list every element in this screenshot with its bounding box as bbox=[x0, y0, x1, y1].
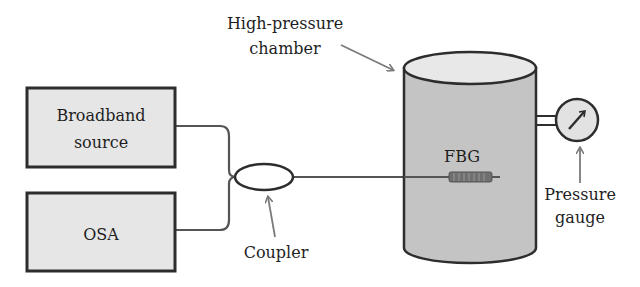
broadband-source-label-line2: source bbox=[74, 133, 128, 152]
grating-lines bbox=[454, 173, 484, 181]
osa-box: OSA bbox=[27, 193, 175, 271]
coupler-label: Coupler bbox=[244, 243, 309, 262]
pressure-gauge: Pressure gauge bbox=[544, 99, 616, 227]
gauge-connector bbox=[534, 116, 556, 125]
diagram-canvas: Broadband source OSA Coupler High-pressu… bbox=[0, 0, 640, 287]
coupler-arrow-icon bbox=[268, 197, 275, 237]
broadband-source-label-line1: Broadband bbox=[56, 106, 145, 125]
coupler: Coupler bbox=[235, 164, 309, 262]
broadband-source-box: Broadband source bbox=[27, 88, 175, 167]
fbg-grating-icon bbox=[449, 172, 492, 182]
chamber-label-line1: High-pressure bbox=[227, 14, 343, 33]
osa-label: OSA bbox=[83, 225, 119, 244]
fbg-label: FBG bbox=[444, 147, 480, 166]
fiber-source-to-coupler bbox=[176, 126, 236, 177]
gauge-label-line1: Pressure bbox=[544, 185, 616, 204]
chamber-label-group: High-pressure chamber bbox=[227, 14, 393, 70]
chamber-label-line2: chamber bbox=[249, 39, 321, 58]
fiber-osa-to-coupler bbox=[176, 177, 236, 230]
chamber-arrow-icon bbox=[341, 45, 393, 70]
gauge-label-line2: gauge bbox=[555, 208, 605, 227]
